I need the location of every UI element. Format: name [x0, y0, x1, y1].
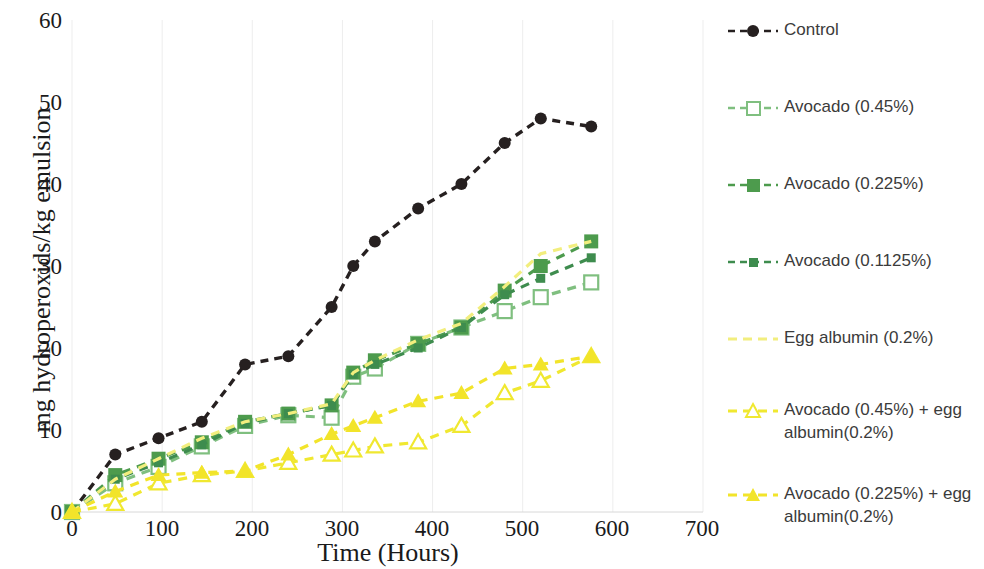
x-tick-label: 0: [42, 516, 102, 542]
series-3: [68, 253, 596, 516]
y-tick-label: 50: [18, 90, 62, 116]
x-tick-label: 400: [402, 516, 462, 542]
legend-item-avocado-0225[interactable]: Avocado (0.225%): [726, 172, 984, 196]
y-tick-label: 30: [18, 254, 62, 280]
y-tick-label: 10: [18, 418, 62, 444]
y-tick-label: 60: [18, 8, 62, 34]
x-tick-label: 600: [582, 516, 642, 542]
legend-item-avocado-01125[interactable]: Avocado (0.1125%): [726, 249, 984, 273]
legend-label: Egg albumin (0.2%): [784, 326, 933, 349]
legend-label: Avocado (0.225%): [784, 172, 924, 195]
legend-key-square-open-icon: [726, 97, 784, 119]
legend-item-avocado-0225-egg[interactable]: Avocado (0.225%) + egg albumin(0.2%): [726, 482, 984, 528]
legend-item-control[interactable]: Control: [726, 18, 984, 42]
legend-key-square-filled-icon: [726, 174, 784, 196]
gridlines: [72, 20, 703, 512]
legend-label: Control: [784, 18, 839, 41]
series-6: [64, 348, 599, 518]
legend-key-square-small-icon: [726, 251, 784, 273]
legend-item-avocado-045-egg[interactable]: Avocado (0.45%) + egg albumin(0.2%): [726, 398, 984, 444]
y-tick-label: 20: [18, 336, 62, 362]
series-2: [65, 234, 598, 519]
x-tick-label: 100: [132, 516, 192, 542]
y-tick-label: 40: [18, 172, 62, 198]
legend-label: Avocado (0.45%) + egg albumin(0.2%): [784, 398, 962, 444]
legend-key-circle-filled-icon: [726, 20, 784, 42]
x-tick-label: 200: [222, 516, 282, 542]
legend-label: Avocado (0.225%) + egg albumin(0.2%): [784, 482, 971, 528]
x-tick-label: 700: [672, 516, 732, 542]
x-tick-label: 500: [492, 516, 552, 542]
chart-legend: Control Avocado (0.45%) Avocado (0.225%): [726, 0, 984, 569]
legend-item-avocado-045[interactable]: Avocado (0.45%): [726, 95, 984, 119]
legend-item-egg-albumin[interactable]: Egg albumin (0.2%): [726, 326, 984, 350]
chart-figure: mg hydroperoxids/kg emulsion Time (Hours…: [0, 0, 984, 569]
x-tick-label: 300: [312, 516, 372, 542]
legend-key-triangle-open-icon: [726, 400, 784, 422]
x-axis-title: Time (Hours): [72, 538, 704, 568]
legend-label: Avocado (0.45%): [784, 95, 914, 118]
legend-key-triangle-filled-icon: [726, 484, 784, 506]
legend-key-line-icon: [726, 328, 784, 350]
legend-label: Avocado (0.1125%): [784, 249, 932, 272]
